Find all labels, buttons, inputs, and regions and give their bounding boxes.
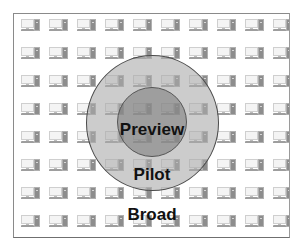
monitor-base [49, 29, 62, 31]
monitor-base [273, 225, 286, 227]
monitor-base [49, 85, 62, 87]
desktop-computer-icon [212, 212, 240, 238]
monitor-icon [133, 19, 146, 28]
desktop-computer-icon [240, 72, 268, 100]
monitor-base [245, 113, 258, 115]
tower-icon [286, 131, 290, 143]
monitor-icon [21, 131, 34, 140]
monitor-base [217, 141, 230, 143]
tower-icon [286, 47, 290, 59]
tower-icon [230, 47, 236, 59]
tower-icon [62, 131, 68, 143]
tower-icon [90, 215, 96, 227]
monitor-base [273, 141, 286, 143]
tower-icon [34, 19, 40, 31]
monitor-icon [105, 47, 118, 56]
tower-icon [34, 131, 40, 143]
desktop-computer-icon [240, 128, 268, 156]
monitor-icon [273, 187, 286, 196]
tower-icon [34, 75, 40, 87]
desktop-computer-icon [128, 16, 156, 44]
desktop-computer-icon [16, 72, 44, 100]
tower-icon [202, 187, 208, 199]
desktop-computer-icon [16, 100, 44, 128]
monitor-icon [189, 19, 202, 28]
monitor-base [273, 113, 286, 115]
tower-icon [62, 75, 68, 87]
tower-icon [258, 159, 264, 171]
tower-icon [118, 187, 124, 199]
monitor-icon [189, 47, 202, 56]
monitor-icon [217, 75, 230, 84]
tower-icon [286, 187, 290, 199]
desktop-computer-icon [268, 128, 290, 156]
desktop-computer-icon [268, 212, 290, 238]
tower-icon [286, 19, 290, 31]
tower-icon [258, 103, 264, 115]
monitor-icon [49, 47, 62, 56]
tower-icon [34, 103, 40, 115]
monitor-base [133, 225, 146, 227]
monitor-icon [21, 159, 34, 168]
desktop-computer-icon [16, 44, 44, 72]
desktop-computer-icon [184, 16, 212, 44]
tower-icon [258, 75, 264, 87]
desktop-computer-icon [44, 156, 72, 184]
desktop-computer-icon [212, 156, 240, 184]
monitor-icon [21, 215, 34, 224]
monitor-base [77, 85, 90, 87]
monitor-base [189, 57, 202, 59]
monitor-icon [49, 159, 62, 168]
monitor-icon [245, 103, 258, 112]
preview-label: Preview [117, 121, 187, 138]
monitor-icon [245, 187, 258, 196]
monitor-icon [49, 187, 62, 196]
tower-icon [230, 131, 236, 143]
monitor-icon [77, 19, 90, 28]
monitor-base [105, 225, 118, 227]
desktop-computer-icon [240, 212, 268, 238]
monitor-base [273, 169, 286, 171]
desktop-computer-icon [44, 184, 72, 212]
monitor-base [161, 197, 174, 199]
monitor-icon [245, 19, 258, 28]
monitor-base [21, 29, 34, 31]
monitor-icon [105, 187, 118, 196]
tower-icon [62, 19, 68, 31]
desktop-computer-icon [16, 128, 44, 156]
monitor-base [49, 169, 62, 171]
monitor-base [217, 85, 230, 87]
monitor-base [133, 197, 146, 199]
tower-icon [286, 159, 290, 171]
monitor-base [49, 141, 62, 143]
desktop-computer-icon [72, 212, 100, 238]
desktop-computer-icon [240, 100, 268, 128]
monitor-base [21, 225, 34, 227]
desktop-computer-icon [184, 184, 212, 212]
monitor-icon [217, 19, 230, 28]
desktop-computer-icon [100, 16, 128, 44]
monitor-icon [49, 75, 62, 84]
monitor-base [273, 85, 286, 87]
monitor-icon [77, 159, 90, 168]
monitor-base [217, 197, 230, 199]
monitor-base [77, 169, 90, 171]
monitor-icon [105, 19, 118, 28]
monitor-base [189, 197, 202, 199]
monitor-icon [49, 215, 62, 224]
monitor-base [49, 57, 62, 59]
tower-icon [90, 75, 96, 87]
desktop-computer-icon [44, 100, 72, 128]
monitor-base [273, 57, 286, 59]
tower-icon [258, 47, 264, 59]
tower-icon [286, 215, 290, 227]
tower-icon [174, 187, 180, 199]
monitor-icon [21, 103, 34, 112]
tower-icon [286, 75, 290, 87]
monitor-base [245, 169, 258, 171]
monitor-icon [21, 19, 34, 28]
desktop-computer-icon [184, 212, 212, 238]
monitor-base [273, 29, 286, 31]
monitor-icon [217, 47, 230, 56]
tower-icon [230, 215, 236, 227]
